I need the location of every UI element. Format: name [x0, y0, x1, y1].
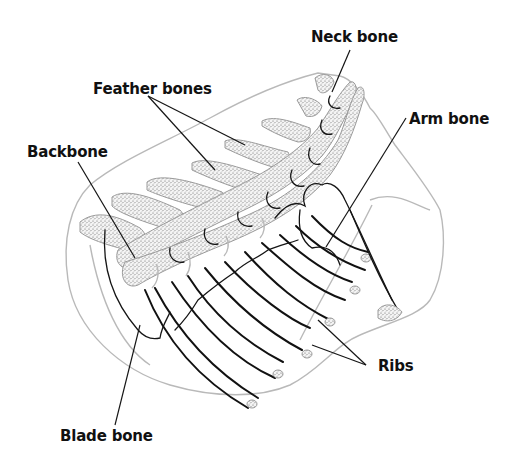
label-ribs: Ribs — [378, 357, 414, 375]
label-blade-bone: Blade bone — [60, 427, 153, 445]
skeleton-diagram: Neck bone Feather bones Arm bone Backbon… — [0, 0, 509, 467]
label-feather-bones: Feather bones — [93, 80, 212, 98]
label-arm-bone: Arm bone — [409, 110, 489, 128]
label-neck-bone: Neck bone — [311, 28, 398, 46]
label-backbone: Backbone — [27, 143, 108, 161]
skeleton-illustration — [0, 0, 509, 467]
arm-bone — [275, 183, 402, 320]
